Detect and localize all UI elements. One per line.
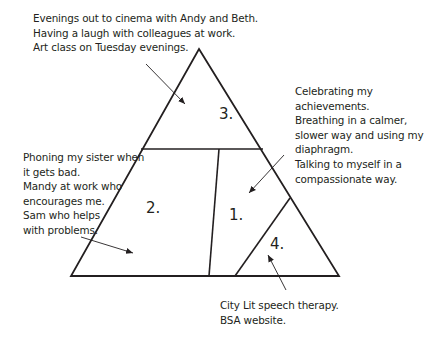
note-line: it gets bad. [23,165,144,180]
note-line: diaphragm. [295,142,423,157]
note-line: Celebrating my [295,84,423,99]
note-line: Sam who helps [23,208,144,223]
note-line: City Lit speech therapy. [220,298,339,313]
section-2-label: 2. [146,201,160,216]
section-1-label: 1. [229,208,243,223]
note-line: Having a laugh with colleagues at work. [33,26,258,41]
note-line: Phoning my sister when [23,150,144,165]
section-1-notes: Celebrating my achievements. Breathing i… [295,84,423,186]
section-3-label: 3. [219,107,233,122]
section-4-label: 4. [270,237,284,252]
note-line: compassionate way. [295,172,423,187]
vertical-divider [209,149,219,276]
triangle-diagram: 3. 2. 1. 4. Evenings out to cinema with … [0,0,426,341]
note-line: Talking to myself in a [295,157,423,172]
section-3-notes: Evenings out to cinema with Andy and Bet… [33,11,258,55]
note-line: achievements. [295,99,423,114]
arrow-to-section-1 [249,155,284,193]
note-line: Art class on Tuesday evenings. [33,40,258,55]
note-line: encourages me. [23,194,144,209]
arrow-to-section-4 [268,255,286,290]
note-line: slower way and using my [295,128,423,143]
note-line: BSA website. [220,313,339,328]
note-line: with problems. [23,223,144,238]
note-line: Breathing in a calmer, [295,113,423,128]
section-4-notes: City Lit speech therapy. BSA website. [220,298,339,327]
note-line: Mandy at work who [23,179,144,194]
note-line: Evenings out to cinema with Andy and Bet… [33,11,258,26]
section-2-notes: Phoning my sister when it gets bad. Mand… [23,150,144,238]
